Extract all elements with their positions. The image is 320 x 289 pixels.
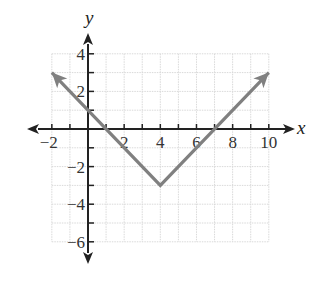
y-axis-label: y [83, 7, 94, 28]
y-tick-label: −2 [67, 158, 85, 177]
x-tick-label: 10 [260, 133, 277, 152]
y-tick-label: −6 [67, 233, 85, 252]
x-tick-label: 8 [228, 133, 237, 152]
x-tick-label: 4 [156, 133, 165, 152]
x-axis-left-arrow-icon [27, 124, 39, 134]
graph-canvas: −2246810 42−2−4−6 x y [0, 0, 320, 289]
y-axis-top-arrow-icon [83, 33, 93, 45]
y-tick-label: −4 [67, 195, 86, 214]
x-tick-labels: −2246810 [40, 133, 278, 152]
x-tick-label: −2 [40, 133, 58, 152]
x-axis-label: x [296, 117, 306, 138]
y-axis-bottom-arrow-icon [83, 252, 93, 264]
y-tick-label: 4 [77, 45, 86, 64]
